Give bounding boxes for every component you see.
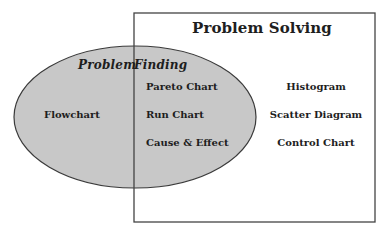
venn-diagram: Problem Solving Problem Finding Flowchar… (0, 0, 388, 233)
problem-finding-title-left: Problem (78, 59, 136, 71)
flowchart-label: Flowchart (44, 110, 100, 120)
problem-solving-title: Problem Solving (192, 21, 332, 36)
scatter-diagram-label: Scatter Diagram (270, 110, 362, 120)
run-chart-label: Run Chart (146, 110, 204, 120)
pareto-chart-label: Pareto Chart (146, 82, 218, 92)
problem-finding-title-right: Finding (134, 59, 187, 71)
cause-effect-label: Cause & Effect (146, 138, 229, 148)
control-chart-label: Control Chart (277, 138, 354, 148)
histogram-label: Histogram (286, 82, 346, 92)
